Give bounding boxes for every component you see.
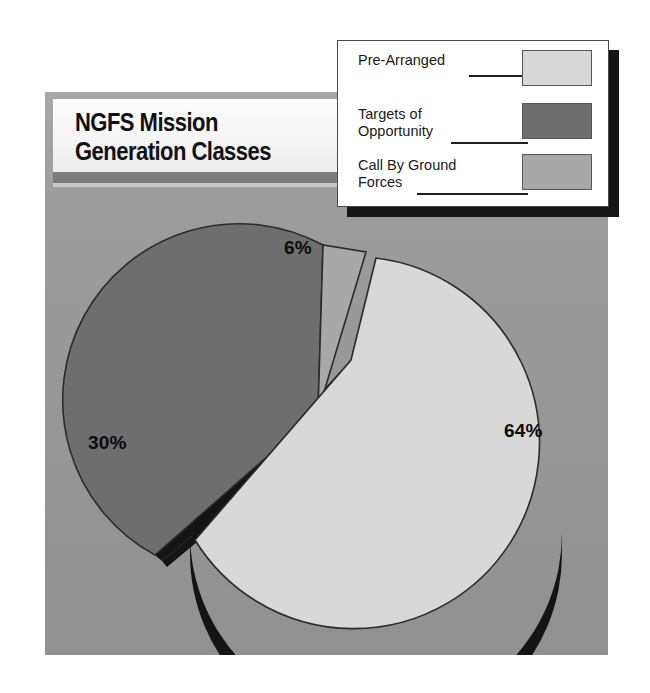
legend-swatch-pre-arranged bbox=[522, 50, 592, 86]
legend-leader-line bbox=[451, 142, 528, 144]
legend-item-call-by-ground-forces: Call By Ground Forces bbox=[338, 149, 608, 204]
legend-item-targets-of-opportunity: Targets of Opportunity bbox=[338, 98, 608, 153]
pie-label-6-percent: 6% bbox=[284, 237, 312, 259]
pie-label-64-percent: 64% bbox=[504, 420, 543, 442]
legend-item-pre-arranged: Pre-Arranged bbox=[338, 44, 608, 99]
chart-canvas: NGFS Mission Generation Classes bbox=[0, 0, 650, 693]
legend-swatch-call-by-ground-forces bbox=[522, 154, 592, 190]
chart-legend: Pre-Arranged Targets of Opportunity Call… bbox=[337, 40, 609, 207]
pie-label-30-percent: 30% bbox=[88, 432, 127, 454]
legend-swatch-targets-of-opportunity bbox=[522, 103, 592, 139]
legend-label-pre-arranged: Pre-Arranged bbox=[358, 52, 508, 69]
legend-leader-line bbox=[417, 193, 528, 195]
legend-leader-line bbox=[469, 75, 528, 77]
legend-label-targets-of-opportunity: Targets of Opportunity bbox=[358, 106, 508, 140]
legend-label-call-by-ground-forces: Call By Ground Forces bbox=[358, 157, 508, 191]
